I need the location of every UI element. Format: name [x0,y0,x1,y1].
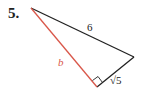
short-leg-label: √5 [110,74,122,86]
hypotenuse-label: 6 [87,21,93,33]
leg-b-side [31,8,97,87]
right-triangle-diagram: 6 b √5 [0,0,145,98]
right-angle-marker [93,77,103,83]
leg-b-label: b [58,56,64,68]
hypotenuse-side [31,8,134,57]
